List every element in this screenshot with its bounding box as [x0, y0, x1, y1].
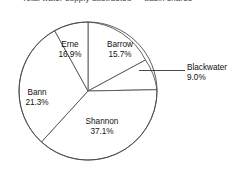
pie-label-blackwater-value: 9.0% [187, 73, 241, 83]
pie-label-bann-name: Bann [27, 88, 46, 97]
pie-label-erne: Erne 16.9% [48, 40, 92, 60]
pie-label-shannon-value: 37.1% [74, 127, 130, 137]
pie-label-erne-name: Erne [61, 40, 78, 49]
pie-label-barrow: Barrow 15.7% [96, 40, 144, 60]
pie-label-barrow-value: 15.7% [96, 50, 144, 60]
pie-label-bann: Bann 21.3% [16, 88, 58, 108]
pie-label-shannon-name: Shannon [86, 117, 119, 126]
pie-label-blackwater-name: Blackwater [187, 63, 227, 72]
pie-label-bann-value: 21.3% [16, 98, 58, 108]
pie-label-blackwater: Blackwater 9.0% [187, 63, 241, 83]
pie-label-barrow-name: Barrow [107, 40, 133, 49]
pie-chart-figure: Total water supply abstracted — basin sh… [0, 0, 243, 183]
pie-label-erne-value: 16.9% [48, 50, 92, 60]
pie-label-shannon: Shannon 37.1% [74, 117, 130, 137]
